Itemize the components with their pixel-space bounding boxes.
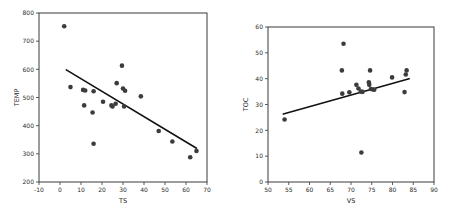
data-point: [91, 89, 96, 94]
x-tick-label: 20: [98, 186, 106, 193]
y-tick-label: 600: [23, 66, 35, 73]
data-point: [113, 101, 118, 106]
data-point: [340, 91, 345, 96]
y-tick-label: 10: [255, 152, 263, 159]
chart-toc-vs-vs-canvas: 5055606570758085900102030405060VSTOC: [225, 0, 451, 215]
data-point: [101, 99, 106, 104]
y-tick-label: 30: [255, 101, 263, 108]
data-point: [120, 63, 125, 68]
x-tick-label: 0: [58, 186, 62, 193]
y-tick-label: 200: [23, 178, 35, 185]
x-axis-title: VS: [347, 197, 356, 205]
y-tick-label: 300: [23, 150, 35, 157]
y-tick-label: 50: [255, 49, 263, 56]
data-point: [368, 68, 373, 73]
data-point: [139, 94, 144, 99]
regression-line: [66, 70, 196, 148]
data-point: [156, 129, 161, 134]
y-tick-label: 20: [255, 127, 263, 134]
data-point: [372, 87, 377, 92]
x-tick-label: 70: [347, 186, 355, 193]
temp-vs-ts-group: -10010203040506070200300400500600700800T…: [13, 9, 211, 205]
data-point: [122, 104, 127, 109]
data-point: [114, 81, 119, 86]
x-tick-label: 50: [161, 186, 169, 193]
x-tick-label: -10: [34, 186, 44, 193]
y-tick-label: 800: [23, 9, 35, 16]
x-tick-label: 30: [119, 186, 127, 193]
data-point: [194, 149, 199, 154]
y-tick-label: 700: [23, 37, 35, 44]
data-point: [390, 75, 395, 80]
x-tick-label: 55: [285, 186, 293, 193]
data-point: [62, 24, 67, 29]
x-tick-label: 75: [368, 186, 376, 193]
data-point: [360, 90, 365, 95]
x-tick-label: 60: [306, 186, 314, 193]
x-tick-label: 60: [182, 186, 190, 193]
data-point: [170, 139, 175, 144]
data-point: [68, 85, 73, 90]
x-tick-label: 70: [203, 186, 211, 193]
x-axis-title: TS: [118, 197, 127, 205]
x-tick-label: 10: [77, 186, 85, 193]
data-point: [404, 68, 409, 73]
y-axis-title: TOC: [242, 97, 250, 112]
y-tick-label: 400: [23, 122, 35, 129]
data-point: [341, 41, 346, 46]
data-point: [340, 68, 345, 73]
data-point: [359, 150, 364, 155]
chart-temp-vs-ts: -10010203040506070200300400500600700800T…: [0, 0, 225, 215]
data-point: [347, 90, 352, 95]
x-tick-label: 90: [430, 186, 438, 193]
y-tick-label: 40: [255, 75, 263, 82]
data-point: [402, 90, 407, 95]
x-tick-label: 40: [140, 186, 148, 193]
data-point: [123, 88, 128, 93]
data-point: [90, 110, 95, 115]
data-point: [282, 117, 287, 122]
figure-panel: -10010203040506070200300400500600700800T…: [0, 0, 451, 215]
y-tick-label: 500: [23, 94, 35, 101]
regression-line: [283, 79, 409, 114]
data-point: [83, 88, 88, 93]
x-tick-label: 85: [409, 186, 417, 193]
x-tick-label: 50: [264, 186, 272, 193]
x-tick-label: 65: [326, 186, 334, 193]
chart-toc-vs-vs: 5055606570758085900102030405060VSTOC: [225, 0, 451, 215]
plot-frame: [268, 27, 434, 182]
toc-vs-vs-group: 5055606570758085900102030405060VSTOC: [242, 23, 438, 205]
data-point: [367, 83, 372, 88]
chart-temp-vs-ts-canvas: -10010203040506070200300400500600700800T…: [0, 0, 225, 215]
plot-frame: [39, 13, 207, 182]
data-point: [82, 103, 87, 108]
x-tick-label: 80: [389, 186, 397, 193]
data-point: [188, 155, 193, 160]
data-point: [403, 72, 408, 77]
data-point: [91, 141, 96, 146]
y-tick-label: 0: [259, 178, 263, 185]
y-axis-title: TEMP: [13, 89, 21, 108]
y-tick-label: 60: [255, 23, 263, 30]
